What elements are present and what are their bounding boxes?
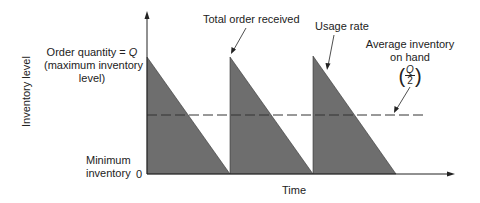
fraction-denominator: 2	[407, 76, 413, 86]
inventory-cycle-2	[230, 57, 313, 174]
fraction-q-over-2: Q 2	[405, 65, 415, 86]
y-tick-zero: 0	[136, 168, 142, 181]
total-order-arrow	[233, 28, 246, 51]
left-paren-icon: (	[398, 66, 405, 86]
right-paren-icon: )	[415, 66, 422, 86]
usage-rate-arrow	[328, 35, 334, 66]
order-quantity-label: Order quantity = Q (maximum inventory le…	[44, 46, 140, 85]
average-inventory-label: Average inventory on hand ( Q 2 )	[360, 38, 460, 86]
x-axis-arrow-icon	[447, 172, 455, 177]
y-axis-arrow-icon	[145, 11, 150, 19]
minimum-inventory-line2: inventory	[86, 167, 131, 180]
average-inventory-arrow	[396, 87, 410, 110]
y-axis-label: Inventory level	[20, 56, 32, 127]
order-quantity-line3: level)	[44, 72, 140, 85]
average-inventory-line1: Average inventory	[360, 38, 460, 51]
average-inventory-line2: on hand	[360, 51, 460, 64]
total-order-received-label: Total order received	[203, 13, 300, 26]
total-order-arrowhead-icon	[231, 47, 236, 54]
minimum-inventory-label: Minimum inventory	[86, 154, 131, 180]
order-quantity-line2: (maximum inventory	[44, 59, 140, 72]
average-inventory-formula: ( Q 2 )	[360, 65, 460, 86]
order-quantity-symbol: Q	[129, 46, 138, 58]
x-axis-label: Time	[282, 184, 306, 197]
usage-rate-arrowhead-icon	[326, 63, 331, 70]
minimum-inventory-line1: Minimum	[86, 154, 131, 167]
order-quantity-prefix: Order quantity =	[47, 46, 129, 58]
usage-rate-label: Usage rate	[315, 20, 369, 33]
inventory-diagram-graphic	[0, 0, 480, 203]
